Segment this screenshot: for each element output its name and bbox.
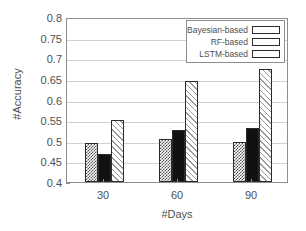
bar [233, 142, 246, 182]
y-tick-label: 0.55 [22, 115, 62, 127]
legend-swatch [252, 26, 280, 34]
bar [246, 128, 259, 182]
y-tick-mark [66, 183, 70, 184]
bar [85, 143, 98, 182]
x-tick-label: 30 [78, 189, 128, 201]
bar [111, 120, 124, 182]
x-tick-mark [103, 179, 104, 183]
legend-item: Bayesian-based [190, 24, 280, 35]
x-tick-label: 90 [226, 189, 276, 201]
gridline [67, 122, 287, 123]
y-tick-label: 0.8 [22, 12, 62, 24]
legend-item-label: RF-based [211, 37, 248, 47]
x-tick-mark [177, 179, 178, 183]
gridline [67, 81, 287, 82]
y-tick-label: 0.5 [22, 136, 62, 148]
legend-swatch [252, 50, 280, 58]
bar-chart-figure: #Accuracy 0.40.450.50.550.60.650.70.750.… [0, 0, 306, 231]
x-tick-label: 60 [152, 189, 202, 201]
chart-legend: Bayesian-basedRF-basedLSTM-based [186, 20, 285, 63]
legend-item: RF-based [190, 36, 280, 47]
bar [172, 130, 185, 182]
y-tick-label: 0.7 [22, 53, 62, 65]
y-tick-label: 0.6 [22, 95, 62, 107]
y-tick-label: 0.4 [22, 177, 62, 189]
y-tick-label: 0.75 [22, 33, 62, 45]
x-axis-label: #Days [66, 208, 288, 220]
legend-item: LSTM-based [190, 48, 280, 59]
legend-item-label: LSTM-based [199, 49, 248, 59]
bar [259, 69, 272, 182]
bar [159, 139, 172, 182]
bar [185, 81, 198, 182]
bar [98, 154, 111, 182]
x-tick-mark [251, 179, 252, 183]
y-tick-label: 0.65 [22, 74, 62, 86]
gridline [67, 102, 287, 103]
legend-item-label: Bayesian-based [187, 25, 248, 35]
legend-swatch [252, 38, 280, 46]
y-tick-label: 0.45 [22, 156, 62, 168]
